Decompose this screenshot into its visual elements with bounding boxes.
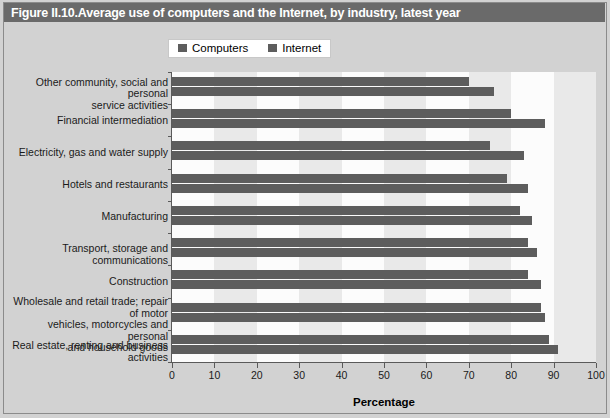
bar-group (172, 298, 596, 330)
bar-internet (172, 280, 541, 289)
bar-internet (172, 345, 558, 354)
x-axis-tick-label: 90 (548, 369, 560, 381)
page-title: Figure II.10.Average use of computers an… (4, 6, 460, 20)
bar-internet (172, 313, 545, 322)
plot-area (172, 72, 596, 362)
x-axis-tick-label: 50 (378, 369, 390, 381)
bar-group (172, 72, 596, 104)
bar-group (172, 233, 596, 265)
x-axis-tick-label: 40 (336, 369, 348, 381)
bar-internet (172, 87, 494, 96)
figure-title-bar: Figure II.10.Average use of computers an… (4, 3, 605, 22)
bar-group (172, 201, 596, 233)
legend-item-computers: Computers (178, 42, 248, 54)
bar-internet (172, 119, 545, 128)
bar-computers (172, 270, 528, 279)
x-axis-tick-label: 100 (587, 369, 605, 381)
bar-computers (172, 174, 507, 183)
category-label: Financial intermediation (6, 115, 168, 127)
x-axis-tick (469, 363, 470, 368)
figure-container: Figure II.10.Average use of computers an… (0, 0, 610, 418)
x-axis-tick-label: 70 (463, 369, 475, 381)
chart-legend: ComputersInternet (168, 39, 331, 58)
y-axis-category-labels: Other community, social and personalserv… (6, 72, 168, 362)
bar-group (172, 104, 596, 136)
legend-swatch-icon (268, 44, 277, 52)
x-axis-tick (257, 363, 258, 368)
bar-group (172, 136, 596, 168)
category-label: Transport, storage and communications (6, 243, 168, 266)
legend-item-internet: Internet (268, 42, 321, 54)
x-axis-tick-label: 80 (505, 369, 517, 381)
category-label: Manufacturing (6, 211, 168, 223)
x-axis-tick (299, 363, 300, 368)
x-axis: 0102030405060708090100 (172, 362, 596, 369)
legend-label: Computers (192, 42, 248, 54)
bar-computers (172, 77, 469, 86)
bar-computers (172, 141, 490, 150)
category-label: Construction (6, 276, 168, 288)
x-axis-tick (342, 363, 343, 368)
x-axis-tick (172, 363, 173, 368)
bar-rows (172, 72, 596, 362)
bar-computers (172, 303, 541, 312)
bar-internet (172, 248, 537, 257)
bar-computers (172, 238, 528, 247)
bar-group (172, 265, 596, 297)
bar-internet (172, 151, 524, 160)
bar-internet (172, 216, 532, 225)
category-label: Other community, social and personalserv… (6, 77, 168, 112)
x-axis-tick-label: 20 (251, 369, 263, 381)
x-axis-tick (214, 363, 215, 368)
category-label: Real estate, renting and business activi… (6, 340, 168, 363)
bar-group (172, 169, 596, 201)
x-axis-tick-label: 10 (209, 369, 221, 381)
category-label: Hotels and restaurants (6, 179, 168, 191)
x-axis-tick-label: 0 (169, 369, 175, 381)
bar-computers (172, 335, 549, 344)
legend-label: Internet (282, 42, 321, 54)
x-axis-tick-label: 60 (421, 369, 433, 381)
x-axis-tick-label: 30 (293, 369, 305, 381)
category-label: Electricity, gas and water supply (6, 147, 168, 159)
x-axis-tick (596, 363, 597, 368)
x-axis-title: Percentage (172, 396, 596, 408)
x-axis-tick (511, 363, 512, 368)
x-axis-tick (426, 363, 427, 368)
x-axis-tick (384, 363, 385, 368)
bar-computers (172, 206, 520, 215)
bar-computers (172, 109, 511, 118)
x-axis-tick (554, 363, 555, 368)
bar-internet (172, 184, 528, 193)
legend-swatch-icon (178, 44, 187, 52)
bar-group (172, 330, 596, 362)
